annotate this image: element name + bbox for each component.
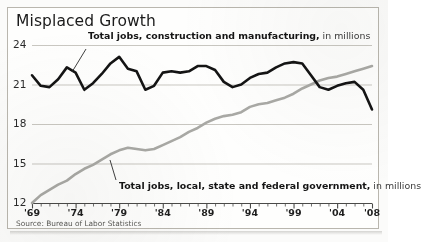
y-axis-tick-label: 18 xyxy=(13,117,26,129)
series-label-government: Total jobs, local, state and federal gov… xyxy=(119,180,421,191)
x-axis-tick-label: '69 xyxy=(24,207,40,218)
x-axis-tick-label: '74 xyxy=(68,207,84,218)
x-axis-tick-label: '99 xyxy=(285,207,301,218)
x-axis-tick-label: '08 xyxy=(364,207,380,218)
x-axis-tick-label: '04 xyxy=(329,207,345,218)
leader-line-top xyxy=(72,49,86,72)
y-axis-tick-label: 15 xyxy=(13,157,26,169)
series-label-bold-bottom: Total jobs, local, state and federal gov… xyxy=(119,180,370,191)
x-axis-tick-label: '79 xyxy=(111,207,127,218)
y-axis-tick-label: 24 xyxy=(13,38,26,50)
x-axis-tick-label: '89 xyxy=(198,207,214,218)
x-axis-tick-label: '84 xyxy=(155,207,171,218)
source-note: Source: Bureau of Labor Statistics xyxy=(16,219,141,228)
series-label-light-top: in millions xyxy=(320,30,371,41)
leader-line-bottom xyxy=(110,160,116,180)
series-label-construction-manufacturing: Total jobs, construction and manufacturi… xyxy=(88,30,370,41)
gridlines xyxy=(32,46,372,165)
series-label-light-bottom: in millions xyxy=(370,180,421,191)
series-label-bold-top: Total jobs, construction and manufacturi… xyxy=(88,30,320,41)
x-axis-tick-label: '94 xyxy=(242,207,258,218)
y-axis-tick-label: 21 xyxy=(13,78,26,90)
series-line-construction-manufacturing xyxy=(32,57,372,110)
